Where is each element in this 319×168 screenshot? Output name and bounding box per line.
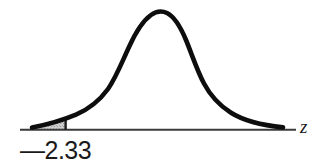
x-axis-tick-label: —2.33: [20, 136, 91, 164]
figure-container: —2.33 z: [0, 0, 319, 168]
axis-variable-label: z: [300, 117, 307, 137]
normal-density-curve: [32, 12, 283, 128]
